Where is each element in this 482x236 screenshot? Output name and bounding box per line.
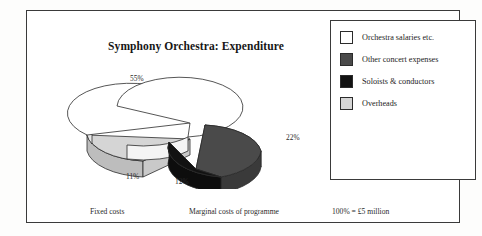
legend-swatch-icon	[340, 31, 353, 44]
pie-chart-svg	[57, 59, 327, 189]
caption-marginal-costs: Marginal costs of programme	[189, 207, 279, 216]
legend-item-label: Other concert expenses	[362, 55, 438, 64]
caption-total-value: 100% = £5 million	[332, 207, 389, 216]
slice-label-other: 22%	[286, 133, 300, 142]
legend-item-label: Overheads	[362, 99, 397, 108]
page-title: Symphony Orchestra: Expenditure	[71, 40, 321, 52]
legend-item-overheads: Overheads	[340, 95, 397, 111]
slice-label-overheads: 11%	[126, 172, 139, 181]
legend-item-orchestra-salaries: Orchestra salaries etc.	[340, 29, 434, 45]
legend-item-soloists-conductors: Soloists & conductors	[340, 73, 434, 89]
legend-swatch-icon	[340, 75, 353, 88]
chart-frame: Symphony Orchestra: Expenditure	[26, 10, 460, 223]
legend-item-other-concert-expenses: Other concert expenses	[340, 51, 438, 67]
legend-item-label: Soloists & conductors	[362, 77, 434, 86]
slice-label-soloists: 12%	[175, 177, 189, 186]
pie-chart: 55% 22% 12% 11%	[57, 59, 327, 189]
caption-fixed-costs: Fixed costs	[90, 207, 124, 216]
legend-swatch-icon	[340, 53, 353, 66]
slice-label-salaries: 55%	[130, 74, 144, 83]
chart-page: Symphony Orchestra: Expenditure	[0, 0, 482, 236]
chart-legend: Orchestra salaries etc. Other concert ex…	[330, 20, 476, 180]
legend-swatch-icon	[340, 97, 353, 110]
legend-item-label: Orchestra salaries etc.	[362, 33, 434, 42]
